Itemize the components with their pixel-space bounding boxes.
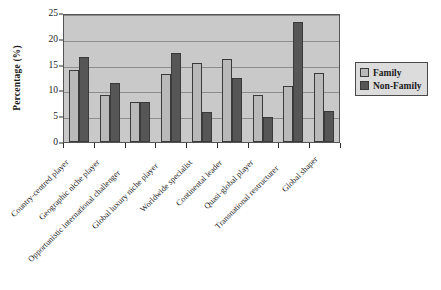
bar-group [278, 15, 309, 142]
bar-groups [64, 15, 339, 142]
bar-group [186, 15, 217, 142]
y-tick-label: 15 [34, 61, 58, 71]
x-tick-mark [309, 143, 310, 148]
y-tick-label: 25 [34, 9, 58, 19]
bar-group [125, 15, 156, 142]
x-tick-mark [94, 143, 95, 148]
bar-non-family [110, 83, 120, 142]
x-tick-mark [340, 143, 341, 148]
plot-area [63, 14, 340, 143]
x-axis-ticks [63, 143, 340, 149]
x-tick-mark [278, 143, 279, 148]
bar-chart-figure: Percentage (%) 0510152025 Country-centre… [0, 0, 441, 290]
y-tick-label: 0 [34, 138, 58, 148]
bar-family [69, 70, 79, 142]
bar-family [253, 95, 263, 142]
x-tick-mark [217, 143, 218, 148]
legend-swatch-family [360, 68, 369, 77]
x-tick-mark [125, 143, 126, 148]
bar-non-family [171, 53, 181, 142]
x-tick-mark [186, 143, 187, 148]
bar-non-family [202, 112, 212, 142]
y-tick-label: 5 [34, 112, 58, 122]
x-category-label: Geographic niche player [38, 159, 102, 223]
bar-group [217, 15, 248, 142]
legend-swatch-nonfamily [360, 81, 369, 90]
bar-group [95, 15, 126, 142]
x-category-label: Quasi-global player [203, 159, 255, 211]
x-category-label: Continental leader [175, 159, 224, 208]
bar-family [161, 74, 171, 142]
bar-family [314, 73, 324, 142]
x-category-label: Worldwide specialist [139, 159, 194, 214]
bar-non-family [324, 111, 334, 142]
bar-family [130, 102, 140, 142]
bar-non-family [263, 117, 273, 142]
y-tick-label: 10 [34, 87, 58, 97]
bar-family [222, 59, 232, 142]
bar-family [192, 63, 202, 142]
bar-family [100, 95, 110, 142]
bar-group [309, 15, 340, 142]
y-tick-label: 20 [34, 35, 58, 45]
x-category-label: Opportunistic international challenger [27, 169, 122, 264]
y-axis-title: Percentage (%) [12, 28, 22, 128]
y-axis-tick-labels: 0510152025 [34, 14, 58, 143]
x-category-label: Country-centred player [10, 159, 70, 219]
x-category-label: Global luxury niche player [91, 162, 160, 231]
bar-group [156, 15, 187, 142]
x-tick-mark [155, 143, 156, 148]
bar-family [283, 86, 293, 142]
bar-non-family [79, 57, 89, 142]
bar-non-family [140, 102, 150, 142]
bar-non-family [232, 78, 242, 143]
legend-label: Family [373, 68, 402, 78]
bar-group [247, 15, 278, 142]
x-tick-mark [63, 143, 64, 148]
chart-legend: FamilyNon-Family [355, 62, 428, 96]
bar-group [64, 15, 95, 142]
x-tick-mark [248, 143, 249, 148]
legend-label: Non-Family [373, 81, 422, 91]
legend-item: Family [360, 66, 422, 79]
x-category-label: Global shaper [281, 156, 320, 195]
legend-item: Non-Family [360, 79, 422, 92]
x-category-label: Transnational restructurer [214, 164, 280, 230]
bar-non-family [293, 22, 303, 142]
